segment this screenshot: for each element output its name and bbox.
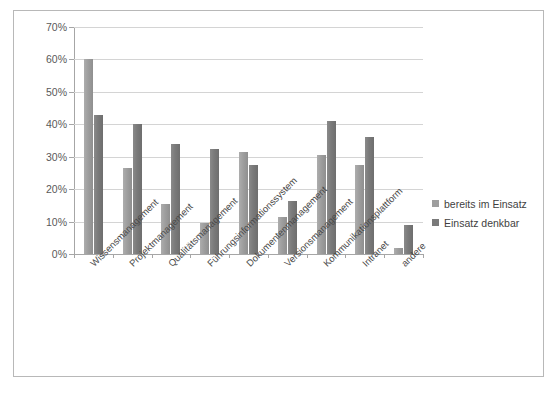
x-axis-tick-mark xyxy=(229,254,230,258)
x-axis-tick-mark xyxy=(74,254,75,258)
bar xyxy=(210,149,219,254)
y-axis-tick-label: 0% xyxy=(52,248,67,260)
x-axis-tick-mark xyxy=(345,254,346,258)
y-axis-tick-label: 30% xyxy=(46,151,67,163)
bar-group xyxy=(394,27,413,254)
bar xyxy=(133,124,142,254)
bar xyxy=(365,137,374,254)
bar-group xyxy=(84,27,103,254)
x-axis-tick-mark xyxy=(307,254,308,258)
legend-swatch-icon xyxy=(432,200,439,207)
legend-label: bereits im Einsatz xyxy=(444,198,527,210)
y-axis-tick-label: 20% xyxy=(46,183,67,195)
chart-frame: 0%10%20%30%40%50%60%70% Wissensmanagemen… xyxy=(13,10,544,377)
legend-label: Einsatz denkbar xyxy=(444,217,519,229)
bar xyxy=(123,168,132,254)
x-axis-tick-mark xyxy=(423,254,424,258)
x-axis-tick-mark xyxy=(113,254,114,258)
y-axis-tick-label: 60% xyxy=(46,53,67,65)
bar xyxy=(171,144,180,254)
chart-legend: bereits im EinsatzEinsatz denkbar xyxy=(432,194,544,232)
y-axis-tick-label: 50% xyxy=(46,86,67,98)
bar xyxy=(394,248,403,254)
bar xyxy=(84,59,93,254)
x-axis-tick-mark xyxy=(152,254,153,258)
y-axis-tick-label: 10% xyxy=(46,216,67,228)
legend-item[interactable]: Einsatz denkbar xyxy=(432,213,544,232)
bar xyxy=(94,115,103,254)
y-axis-tick-label: 40% xyxy=(46,118,67,130)
bar xyxy=(327,121,336,254)
x-axis-tick-mark xyxy=(190,254,191,258)
x-axis-tick-mark xyxy=(268,254,269,258)
legend-swatch-icon xyxy=(432,219,439,226)
y-axis-tick-label: 70% xyxy=(46,21,67,33)
x-axis-tick-mark xyxy=(384,254,385,258)
legend-item[interactable]: bereits im Einsatz xyxy=(432,194,544,213)
